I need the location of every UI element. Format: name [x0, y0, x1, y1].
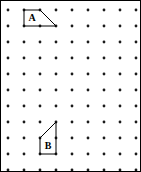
dot-grid-figure: AB [0, 0, 141, 172]
figure-border [0, 0, 141, 172]
figure-border-rect [1, 1, 141, 172]
